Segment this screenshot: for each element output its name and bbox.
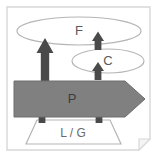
diagram-canvas: F C L / G P (0, 0, 157, 157)
layer-p-label: P (68, 91, 77, 106)
layer-f-label: F (75, 23, 83, 38)
layer-c-label: C (103, 53, 112, 68)
diagram-svg: F C L / G P (0, 0, 157, 157)
layer-p-band (14, 81, 145, 117)
layer-lg-label: L / G (60, 126, 86, 140)
